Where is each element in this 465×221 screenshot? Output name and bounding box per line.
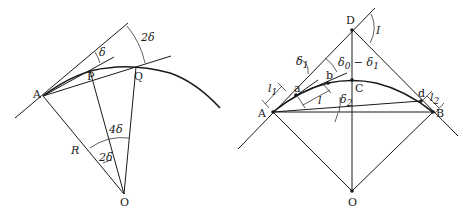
point-label-q: Q [134,70,143,83]
radius-ao-right [273,112,352,191]
point-label-c: C [355,82,363,95]
point-label-d: D [346,14,355,27]
point-label-b-small: b [326,69,333,82]
radius-ao [43,96,124,194]
point-b-right [431,110,435,114]
dim-line-l [303,90,330,105]
radius-qo [124,67,136,194]
angle-label-delta0-minus-delta1: δ0 − δ1 [338,56,379,71]
point-a-right [271,110,275,114]
svg-text:δ2: δ2 [340,93,353,108]
angle-label-2delta-bottom: 2δ [98,151,113,164]
dim-label-l2: l2 [430,91,440,106]
angle-label-2delta-top: 2δ [140,31,155,44]
radius-bo-right [352,112,433,191]
angle-label-i: I [375,24,381,37]
svg-text:l2: l2 [430,91,440,106]
tangent-line-left [15,23,128,118]
dim-tick-l-b [322,83,331,93]
angle-arc-i [370,14,374,43]
point-label-a-left: A [32,88,42,101]
angle-arrow-delta2 [335,113,338,122]
dim-label-l: l [318,94,322,107]
dim-tick-l-a [298,97,305,108]
point-label-b-right: B [436,107,444,120]
svg-text:δ1: δ1 [296,55,308,70]
angle-label-4delta: 4δ [108,123,123,136]
point-label-o-right: O [348,196,357,209]
point-label-p: P [87,70,95,83]
point-d [350,28,354,32]
point-label-a-right: A [257,107,267,120]
dim-tick-l1-b [278,83,286,91]
point-c [350,78,354,82]
point-label-a-small: a [294,82,301,95]
left-figure: A P Q O R δ 2δ 4δ 2δ [15,23,220,209]
svg-text:l1: l1 [268,82,277,97]
angle-label-delta: δ [99,46,106,59]
diagram-canvas: A P Q O R δ 2δ 4δ 2δ [0,0,465,221]
tangent-line-ad [238,8,375,149]
svg-text:δ0 − δ1: δ0 − δ1 [338,56,379,71]
point-label-d-small: d [418,87,425,100]
radius-label: R [70,144,79,157]
angle-label-delta1: δ1 [296,55,308,70]
right-figure: A B C D O a b d I δ1 δ0 − δ1 δ2 l1 l l2 [238,8,458,209]
dim-label-l1: l1 [268,82,277,97]
chord-line-ap-extended [43,57,114,96]
chord-line-aq-extended [43,56,171,96]
point-label-o-left: O [120,196,129,209]
point-o-right [350,189,354,193]
angle-label-delta2: δ2 [340,93,353,108]
